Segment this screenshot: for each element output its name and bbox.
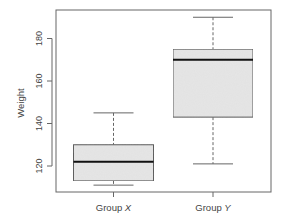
x-axis: Group XGroup Y (96, 192, 232, 213)
y-tick-label: 120 (34, 158, 44, 173)
y-axis: 120140160180 (34, 31, 52, 174)
y-tick-label: 140 (34, 116, 44, 131)
y-axis-title: Weight (15, 88, 26, 118)
boxes (74, 17, 254, 185)
box-group-y (173, 17, 253, 164)
box-plot-chart: 120140160180 Weight Group XGroup Y (0, 0, 286, 224)
y-tick-label: 160 (34, 73, 44, 88)
x-tick-label: Group X (96, 202, 132, 213)
y-tick-label: 180 (34, 31, 44, 46)
x-tick-label: Group Y (195, 202, 231, 213)
box-group-x (74, 113, 154, 185)
